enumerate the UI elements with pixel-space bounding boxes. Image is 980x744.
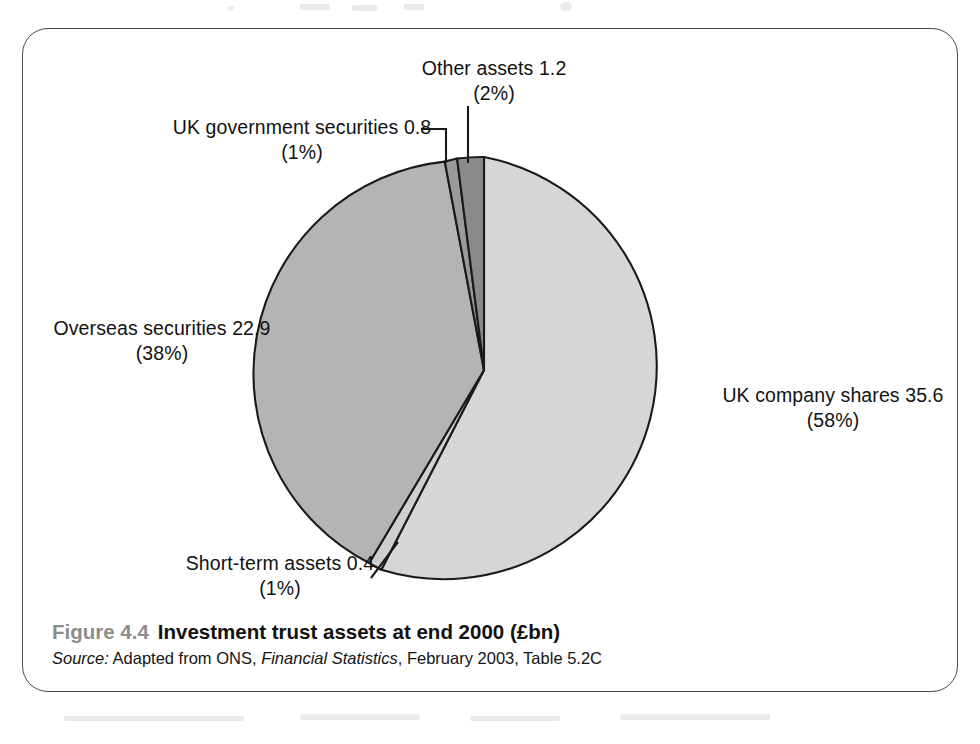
figure-caption: Figure 4.4Investment trust assets at end… [52,618,908,670]
label-short-term-assets-name: Short-term assets 0.4 [186,552,375,574]
source-lead: Source: [52,649,109,667]
label-uk-company-shares-name: UK company shares 35.6 [722,384,943,406]
label-uk-company-shares: UK company shares 35.6 (58%) [706,383,960,433]
label-short-term-assets-percent: (1%) [152,576,408,601]
pie-chart: Other assets 1.2 (2%) UK government secu… [0,0,980,744]
label-overseas-securities-percent: (38%) [40,341,284,366]
source-publication: Financial Statistics [261,649,398,667]
figure-caption-title: Figure 4.4Investment trust assets at end… [52,618,908,645]
label-other-assets-percent: (2%) [394,81,594,106]
label-uk-government-securities-percent: (1%) [168,140,436,165]
label-overseas-securities: Overseas securities 22.9 (38%) [40,316,284,366]
label-uk-government-securities: UK government securities 0.8 (1%) [168,115,436,165]
label-overseas-securities-name: Overseas securities 22.9 [54,317,271,339]
label-other-assets: Other assets 1.2 (2%) [394,56,594,106]
figure-title: Investment trust assets at end 2000 (£bn… [158,620,560,643]
label-other-assets-name: Other assets 1.2 [422,57,567,79]
label-short-term-assets: Short-term assets 0.4 (1%) [152,551,408,601]
figure-number: Figure 4.4 [52,620,149,643]
label-uk-company-shares-percent: (58%) [706,408,960,433]
source-text-2: , February 2003, Table 5.2C [398,649,602,667]
source-text-1: Adapted from ONS, [109,649,261,667]
label-uk-government-securities-name: UK government securities 0.8 [173,116,432,138]
figure-source: Source: Adapted from ONS, Financial Stat… [52,647,908,670]
